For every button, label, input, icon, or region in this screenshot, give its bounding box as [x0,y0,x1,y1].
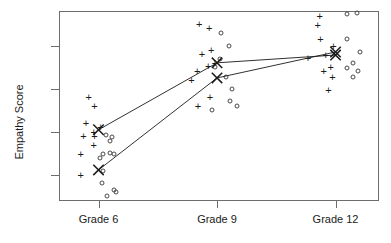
data-point [218,56,223,61]
data-point [100,180,105,185]
x-tick-mark [217,201,218,208]
data-point [210,108,215,113]
data-point [114,189,119,194]
data-point [104,133,109,138]
data-point [223,74,228,79]
data-point [227,98,232,103]
x-tick-label: Grade 6 [64,213,134,225]
data-point [344,36,349,41]
data-point [218,31,223,36]
data-point [230,86,235,91]
x-tick-mark [336,201,337,208]
data-point [105,193,110,198]
data-point [226,44,231,49]
data-point [98,155,103,160]
data-point [108,138,113,143]
data-point [356,69,361,74]
data-markers-layer: ++++++++++++++++++++++++++++++ [0,0,391,243]
x-tick-label: Grade 12 [301,213,371,225]
data-point [345,66,350,71]
data-point [358,50,363,55]
x-tick-mark [99,201,100,208]
data-point [351,74,356,79]
data-point [345,12,350,17]
chart-figure: Empathy Score 30405060 +++++++++++++++++… [0,0,391,243]
x-tick-label: Grade 9 [182,213,252,225]
data-point [101,168,106,173]
data-point [234,104,239,109]
data-point [213,65,218,70]
data-point [351,60,356,65]
data-point [112,151,117,156]
data-point [355,10,360,15]
